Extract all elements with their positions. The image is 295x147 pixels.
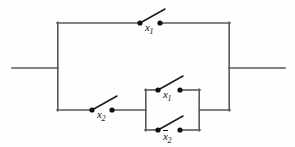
top-branch-switch-label-sub: 1	[149, 27, 153, 36]
inner-bottom-switch-label-base: x	[163, 131, 168, 142]
inner-top-switch-label: x1	[163, 89, 171, 103]
top-branch-switch-label: x1	[145, 22, 153, 36]
inner-top-switch-right-terminal	[177, 87, 182, 92]
inner-top-switch-left-terminal	[155, 87, 160, 92]
bottom-branch-switch-right-terminal	[109, 107, 114, 112]
inner-bottom-switch-right-terminal	[177, 127, 182, 132]
inner-top-switch-label-sub: 1	[167, 94, 171, 103]
inner-bottom-switch-label: x2	[163, 131, 171, 145]
bottom-branch-switch-label-sub: 2	[101, 114, 105, 123]
top-branch-switch-right-terminal	[157, 20, 162, 25]
bottom-branch-switch-left-terminal	[89, 107, 94, 112]
bottom-branch-switch-label: x2	[97, 109, 105, 123]
switching-circuit-figure: x1 x2 x1 x2	[0, 0, 295, 147]
inner-bottom-switch-left-terminal	[155, 127, 160, 132]
top-branch-switch-left-terminal	[137, 20, 142, 25]
